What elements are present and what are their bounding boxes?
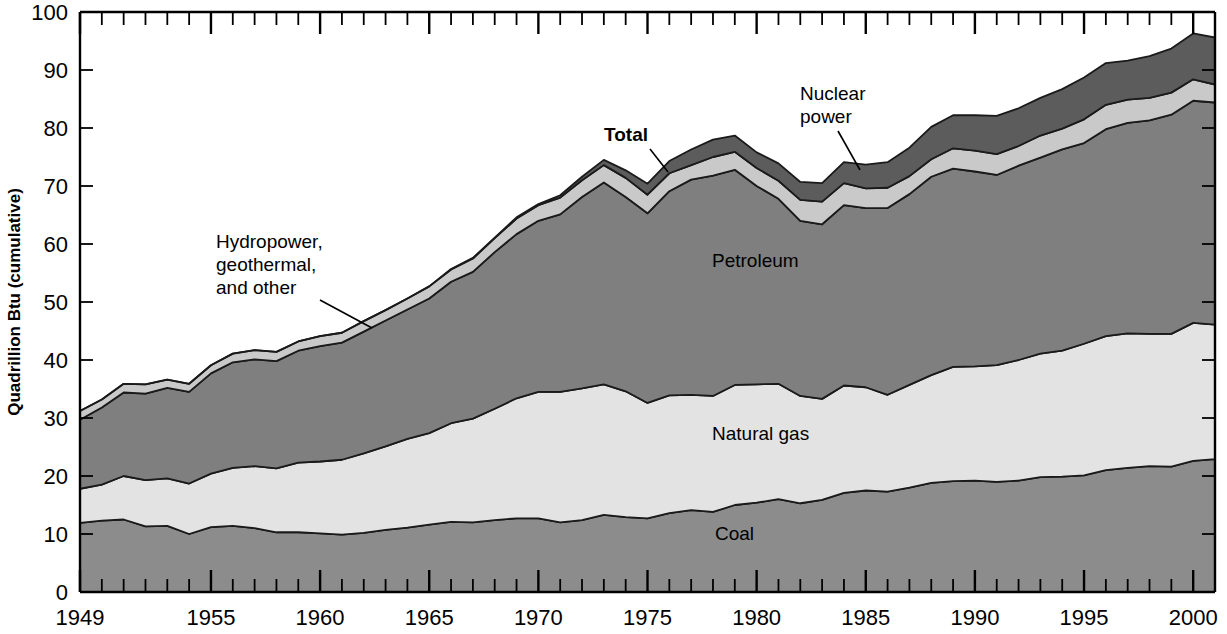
y-tick-label: 60 — [44, 232, 68, 257]
y-tick-label: 10 — [44, 522, 68, 547]
x-tick-label: 1985 — [841, 605, 890, 630]
y-tick-label: 30 — [44, 406, 68, 431]
hydro-label-line2: geothermal, — [216, 254, 316, 275]
y-tick-label: 40 — [44, 348, 68, 373]
y-tick-label: 0 — [56, 580, 68, 605]
hydro-label-line3: and other — [216, 277, 297, 298]
energy-consumption-chart: 0102030405060708090100 19491955196019651… — [0, 0, 1227, 634]
natural-gas-label: Natural gas — [712, 423, 809, 444]
x-tick-label: 1955 — [186, 605, 235, 630]
y-tick-label: 20 — [44, 464, 68, 489]
y-tick-label: 80 — [44, 116, 68, 141]
chart-canvas: 0102030405060708090100 19491955196019651… — [0, 0, 1227, 634]
total-label: Total — [604, 124, 648, 145]
x-tick-label: 1975 — [623, 605, 672, 630]
hydro-label-line1: Hydropower, — [216, 231, 323, 252]
y-tick-label: 50 — [44, 290, 68, 315]
coal-label: Coal — [715, 523, 754, 544]
x-tick-label: 1980 — [732, 605, 781, 630]
nuclear-label-line2: power — [800, 106, 852, 127]
x-tick-label: 2000 — [1169, 605, 1218, 630]
nuclear-label-line1: Nuclear — [800, 83, 866, 104]
y-axis-label: Quadrillion Btu (cumulative) — [5, 188, 24, 416]
y-tick-label: 100 — [31, 0, 68, 25]
petroleum-label: Petroleum — [712, 250, 799, 271]
x-tick-label: 1960 — [296, 605, 345, 630]
y-tick-label: 90 — [44, 58, 68, 83]
x-tick-label: 1990 — [950, 605, 999, 630]
y-tick-label: 70 — [44, 174, 68, 199]
x-tick-label: 1995 — [1060, 605, 1109, 630]
x-tick-label: 1965 — [405, 605, 454, 630]
x-tick-label: 1970 — [514, 605, 563, 630]
x-tick-label: 1949 — [56, 605, 105, 630]
